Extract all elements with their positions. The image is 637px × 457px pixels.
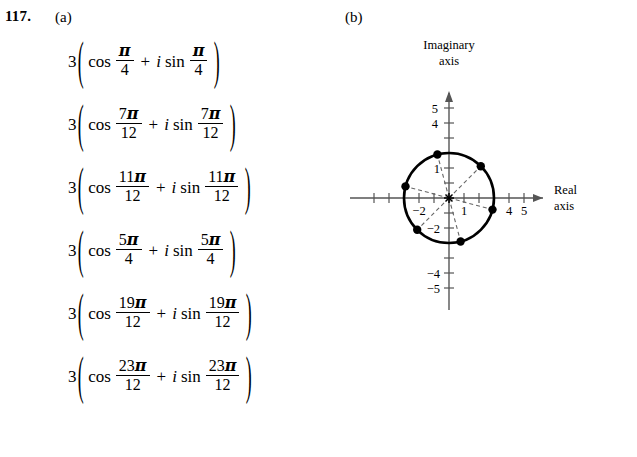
plus-symbol: + [157,367,167,387]
y-tick-label-1: 1 [434,162,440,176]
pi-symbol: π [119,41,131,60]
pi-symbol: π [225,356,237,375]
plus-symbol: + [149,115,159,135]
paren-open: ( [77,282,83,345]
coefficient: 3 [68,304,77,324]
fraction-sin: π 4 [190,43,208,79]
cos-label: cos [88,178,111,198]
fraction-denominator: 4 [118,61,132,78]
fraction-denominator: 4 [122,250,136,267]
fraction-denominator: 4 [204,250,218,267]
y-tick-label-minus2: −2 [427,222,440,236]
root-point [413,226,421,234]
complex-plane-svg: Imaginary axis Real axis 5 4 1 −2 −4 −5 … [330,25,637,325]
pi-symbol: π [209,230,221,249]
fraction-numerator: 5π [116,232,142,249]
expression-row: 3 ( cos 23π 12 + i sin 23π 12 ) [58,345,338,408]
fraction-numerator: 7π [116,106,142,123]
sin-label: sin [173,115,193,135]
fraction-numerator: 5π [198,232,224,249]
imaginary-unit: i [172,304,177,324]
fraction-denominator: 12 [212,376,234,393]
paren-close: ) [246,345,252,408]
sin-label: sin [180,178,200,198]
root-point [488,205,496,213]
paren-close: ) [230,219,236,282]
pi-symbol: π [224,167,236,186]
origin-asterisk-icon [444,193,454,203]
x-tick-label-5: 5 [521,204,527,218]
paren-open: ( [77,30,83,93]
expression-row: 3 ( cos 7π 12 + i sin 7π 12 ) [58,93,338,156]
root-point [456,237,464,245]
cos-label: cos [88,52,111,72]
fraction-numerator: π [190,43,208,60]
expression-row: 3 ( cos π 4 + i sin π 4 ) [58,30,338,93]
pi-symbol: π [127,230,139,249]
fraction-sin: 23π 12 [206,358,240,394]
expression-row: 3 ( cos 19π 12 + i sin 19π 12 ) [58,282,338,345]
pi-symbol: π [225,293,237,312]
paren-open: ( [77,156,83,219]
part-b-label: (b) [345,9,363,26]
sin-label: sin [181,304,201,324]
paren-close: ) [214,30,220,93]
imaginary-axis-label-line1: Imaginary [423,38,475,52]
fraction-denominator: 12 [122,376,144,393]
fraction-numerator: 23π [206,358,240,375]
coefficient: 3 [68,178,77,198]
paren-close: ) [246,282,252,345]
imaginary-unit: i [172,178,177,198]
x-tick-label-4: 4 [506,204,513,218]
y-tick-label-minus4: −4 [427,267,441,281]
pi-symbol: π [127,104,139,123]
y-tick-label-4: 4 [432,117,439,131]
cos-label: cos [88,241,111,261]
fraction-denominator: 4 [192,61,206,78]
coefficient: 3 [68,52,77,72]
page-canvas: 117. (a) (b) 3 ( cos π 4 + i sin π 4 ) [0,0,637,457]
real-axis-label-line1: Real [554,183,577,197]
fraction-denominator: 12 [212,313,234,330]
fraction-denominator: 12 [200,124,222,141]
fraction-cos: 19π 12 [116,295,150,331]
complex-plane-diagram: Imaginary axis Real axis 5 4 1 −2 −4 −5 … [330,25,637,325]
pi-symbol: π [135,293,147,312]
plus-symbol: + [149,241,159,261]
expression-list: 3 ( cos π 4 + i sin π 4 ) 3 ( cos 7π [58,30,338,408]
fraction-sin: 7π 12 [198,106,224,142]
root-point [433,150,441,158]
coefficient: 3 [68,241,77,261]
imaginary-unit: i [164,115,169,135]
pi-symbol: π [209,104,221,123]
pi-symbol: π [135,356,147,375]
imaginary-unit: i [172,367,177,387]
pi-symbol: π [134,167,146,186]
cos-label: cos [88,304,111,324]
pi-symbol: π [193,41,205,60]
imaginary-unit: i [156,52,161,72]
y-tick-label-minus5: −5 [427,282,440,296]
sin-label: sin [181,367,201,387]
expression-row: 3 ( cos 11π 12 + i sin 11π 12 ) [58,156,338,219]
real-axis-arrow-icon [533,194,543,202]
fraction-numerator: 11π [205,169,238,186]
imaginary-axis-label-line2: axis [439,54,459,68]
part-a-label: (a) [55,9,72,26]
fraction-numerator: 23π [116,358,150,375]
fraction-numerator: 19π [116,295,150,312]
paren-open: ( [77,345,83,408]
fraction-denominator: 12 [118,124,140,141]
fraction-sin: 19π 12 [206,295,240,331]
fraction-cos: 11π 12 [116,169,149,205]
cos-label: cos [88,115,111,135]
x-tick-label-1: 1 [461,204,467,218]
y-tick-label-5: 5 [432,102,438,116]
imaginary-unit: i [164,241,169,261]
plus-symbol: + [156,178,166,198]
coefficient: 3 [68,367,77,387]
fraction-cos: 5π 4 [116,232,142,268]
plus-symbol: + [157,304,167,324]
fraction-cos: π 4 [116,43,134,79]
paren-close: ) [230,93,236,156]
